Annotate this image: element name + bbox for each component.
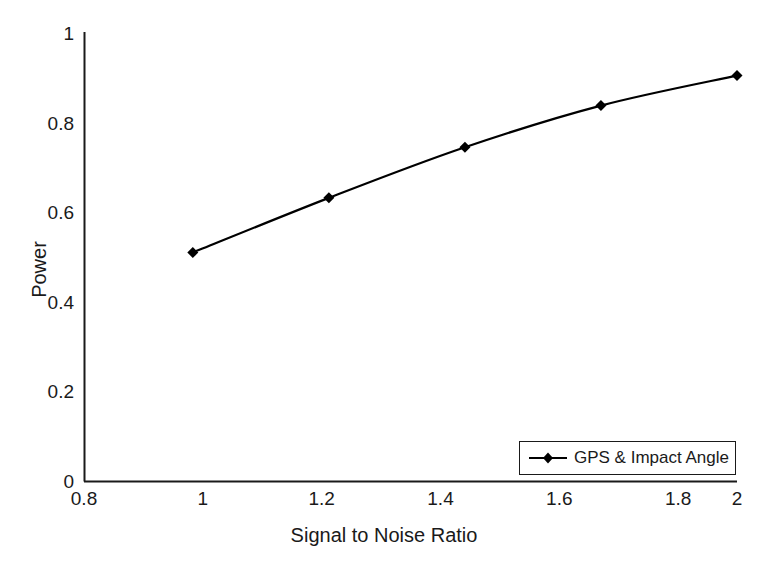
series-line xyxy=(193,76,737,253)
x-tick-label: 1.4 xyxy=(427,489,453,508)
data-point xyxy=(732,70,743,81)
x-tick-label: 0.8 xyxy=(71,489,97,508)
series-gps-impact-angle xyxy=(187,70,742,258)
y-tick-label: 0.8 xyxy=(30,113,74,132)
legend: GPS & Impact Angle xyxy=(519,441,736,475)
y-tick-label: 0 xyxy=(30,472,74,491)
y-tick-label: 0.2 xyxy=(30,382,74,401)
legend-item-gps-impact-angle: GPS & Impact Angle xyxy=(528,448,729,468)
legend-label: GPS & Impact Angle xyxy=(574,448,729,468)
x-tick-label: 1.8 xyxy=(665,489,691,508)
x-tick-label: 2 xyxy=(732,489,743,508)
data-point xyxy=(323,192,334,203)
y-tick-label: 0.6 xyxy=(30,203,74,222)
data-point xyxy=(459,142,470,153)
diamond-marker-icon xyxy=(528,451,568,465)
chart-figure: 0 0.2 0.4 0.6 0.8 1 0.8 1 1.2 1.4 1.6 1.… xyxy=(0,0,768,568)
x-axis-title: Signal to Noise Ratio xyxy=(0,524,768,547)
x-tick-label: 1.6 xyxy=(546,489,572,508)
series-markers xyxy=(187,70,742,258)
y-axis-title: Power xyxy=(28,225,51,315)
x-tick-label: 1.2 xyxy=(308,489,334,508)
x-tick-label: 1 xyxy=(198,489,209,508)
data-point xyxy=(595,100,606,111)
data-point xyxy=(187,247,198,258)
y-tick-label: 1 xyxy=(30,24,74,43)
plot-area xyxy=(0,0,768,568)
